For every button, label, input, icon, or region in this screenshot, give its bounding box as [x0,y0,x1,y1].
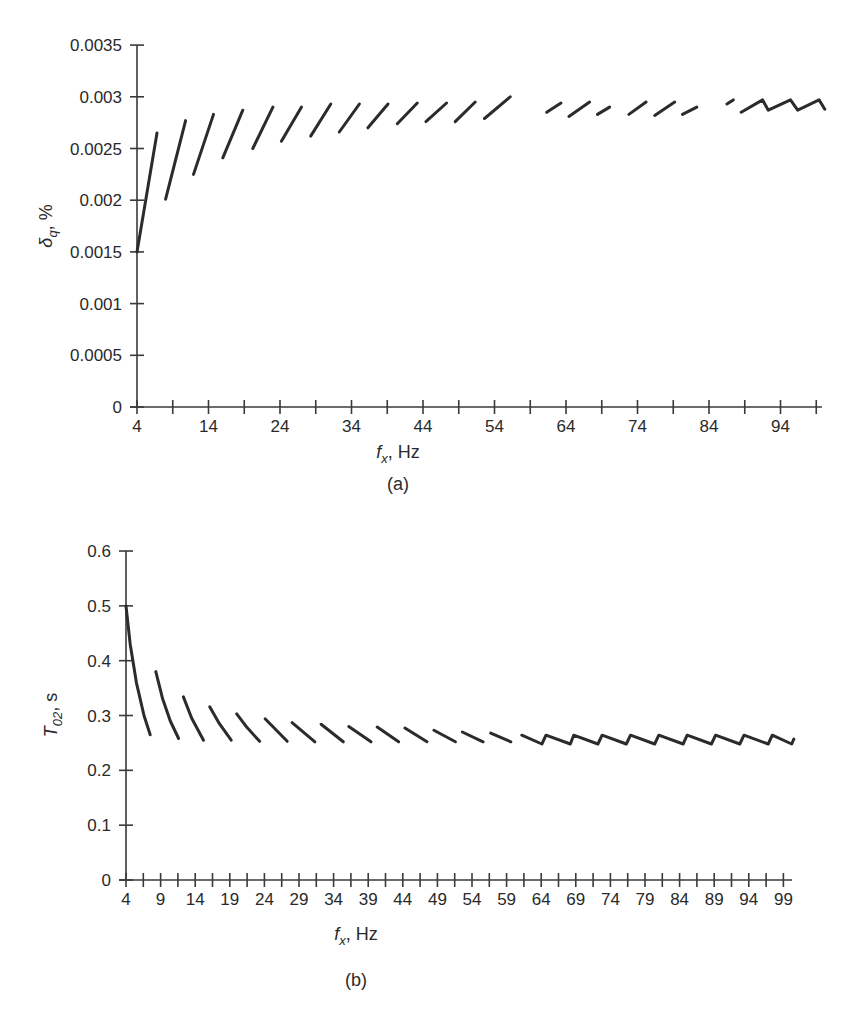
y-tick-label: 0.0025 [70,140,122,159]
data-segment [223,110,243,158]
y-tick-label: 0.003 [79,88,122,107]
y-axis-ticks-a: 00.00050.0010.00150.0020.00250.0030.0035 [70,36,144,417]
data-segment [655,102,675,115]
x-tick-label: 49 [428,890,447,909]
y-tick-label: 0.5 [87,597,111,616]
data-segment [166,121,186,200]
data-segment [547,103,561,112]
y-tick-label: 0.0015 [70,243,122,262]
x-tick-label: 79 [636,890,655,909]
chart-panel-a: 00.00050.0010.00150.0020.00250.0030.0035… [36,36,825,494]
data-segment [156,672,179,739]
data-segment [253,107,273,148]
x-tick-label: 24 [271,417,290,436]
data-segment [569,102,590,116]
chart-panel-b: 00.10.20.30.40.50.6 49141924293439444954… [41,542,794,990]
x-tick-label: 44 [414,417,433,436]
y-tick-label: 0.2 [87,761,111,780]
x-axis-title-a: fx, Hz [376,442,420,466]
data-segment [377,727,398,742]
x-tick-label: 69 [566,890,585,909]
x-tick-label: 94 [771,417,790,436]
data-series-a [137,97,825,252]
data-segment [598,107,610,114]
y-tick-label: 0.0035 [70,36,122,55]
data-segment [265,719,287,742]
x-tick-label: 94 [739,890,758,909]
x-tick-label: 74 [601,890,620,909]
data-segment [368,104,388,128]
data-segment [522,735,794,744]
x-axis-ticks-b: 49141924293439444954596469747984899499 [121,873,793,909]
x-axis-ticks-a: 4142434445464748494 [132,400,816,436]
y-axis-title-a: δq, % [36,204,60,247]
data-segment [426,103,447,122]
data-segment [455,102,475,122]
x-tick-label: 9 [156,890,165,909]
x-tick-label: 64 [557,417,576,436]
x-tick-label: 4 [121,890,130,909]
y-tick-label: 0 [102,871,111,890]
data-segment [405,728,427,742]
y-tick-label: 0.4 [87,652,111,671]
x-tick-label: 24 [255,890,274,909]
data-segment [397,103,417,124]
x-tick-label: 29 [290,890,309,909]
x-tick-label: 39 [359,890,378,909]
data-segment [321,724,343,742]
x-tick-label: 74 [628,417,647,436]
x-tick-label: 64 [532,890,551,909]
x-tick-label: 44 [393,890,412,909]
x-tick-label: 34 [324,890,343,909]
y-tick-label: 0.1 [87,816,111,835]
data-segment [741,100,825,112]
data-segment [629,102,646,114]
data-segment [237,714,260,741]
data-segment [683,107,697,114]
figure: 00.00050.0010.00150.0020.00250.0030.0035… [0,0,856,1018]
data-segment [727,100,733,104]
x-tick-label: 14 [186,890,205,909]
x-tick-label: 4 [132,417,141,436]
data-series-b [126,606,794,744]
data-segment [311,104,331,136]
y-tick-label: 0.002 [79,191,122,210]
y-tick-label: 0.6 [87,542,111,561]
x-tick-label: 34 [342,417,361,436]
x-tick-label: 14 [199,417,218,436]
data-segment [210,707,232,741]
data-segment [491,733,511,742]
data-segment [349,727,371,742]
data-segment [281,107,301,141]
x-tick-label: 54 [485,417,504,436]
data-segment [292,723,315,742]
data-segment [339,104,359,132]
data-segment [462,732,483,742]
x-tick-label: 54 [463,890,482,909]
x-tick-label: 99 [774,890,793,909]
panel-label-a: (a) [387,474,409,494]
y-tick-label: 0 [113,398,122,417]
panel-label-b: (b) [345,970,367,990]
y-tick-label: 0.0005 [70,346,122,365]
x-axis-title-b: fx, Hz [334,924,378,948]
x-tick-label: 84 [670,890,689,909]
data-segment [183,697,203,740]
data-segment [485,97,511,119]
data-segment [137,133,157,252]
x-tick-label: 19 [220,890,239,909]
y-axis-title-b: T02, s [41,693,65,737]
data-segment [194,114,214,174]
x-tick-label: 59 [497,890,516,909]
y-tick-label: 0.3 [87,707,111,726]
x-tick-label: 89 [705,890,724,909]
x-tick-label: 84 [700,417,719,436]
data-segment [434,730,456,742]
y-tick-label: 0.001 [79,295,122,314]
